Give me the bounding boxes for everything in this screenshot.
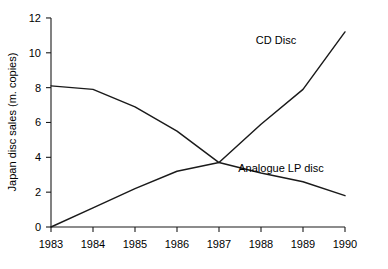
y-axis-title: Japan disc sales (m. copies) [6,53,18,192]
series-line-analogue-lp-disc [51,86,345,196]
chart-canvas: 024681012 198319841985198619871988198919… [0,0,388,269]
line-chart: 024681012 198319841985198619871988198919… [0,0,388,269]
x-tick-label-1984: 1984 [81,238,105,250]
y-tick-label-4: 4 [35,151,41,163]
series-line-cd-disc [51,32,345,227]
series-label-cd-disc: CD Disc [256,34,297,46]
axes-group [51,18,345,227]
x-tick-label-1989: 1989 [291,238,315,250]
x-tick-label-1988: 1988 [249,238,273,250]
x-tick-label-1983: 1983 [39,238,63,250]
x-axis-ticks [51,227,345,232]
y-tick-label-12: 12 [29,12,41,24]
series-label-analogue-lp-disc: Analogue LP disc [238,162,324,174]
y-tick-label-0: 0 [35,221,41,233]
y-axis-tick-labels: 024681012 [29,12,41,233]
y-axis-ticks [46,18,51,227]
y-tick-label-10: 10 [29,47,41,59]
y-tick-label-6: 6 [35,116,41,128]
series-annotation-labels: CD DiscAnalogue LP disc [238,34,324,174]
x-tick-label-1987: 1987 [207,238,231,250]
y-tick-label-8: 8 [35,82,41,94]
y-tick-label-2: 2 [35,186,41,198]
series-lines-group [51,32,345,227]
x-tick-label-1986: 1986 [165,238,189,250]
x-tick-label-1985: 1985 [123,238,147,250]
x-axis-tick-labels: 19831984198519861987198819891990 [39,238,357,250]
x-tick-label-1990: 1990 [333,238,357,250]
